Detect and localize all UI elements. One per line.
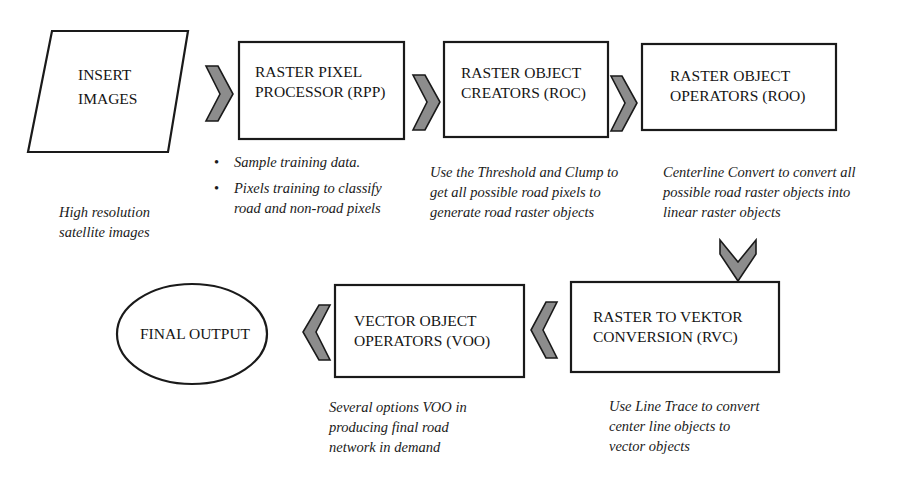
voo-caption: Several options VOO in producing final r…: [329, 397, 467, 457]
bullet-item: Sample training data.: [212, 152, 412, 172]
insert-images-caption: High resolution satellite images: [59, 202, 150, 242]
rpp-label-line2: PROCESSOR (RPP): [255, 82, 386, 102]
insert-images-label-line1: INSERT: [78, 65, 137, 85]
caption-line: Centerline Convert to convert all: [663, 162, 856, 182]
caption-line: vector objects: [609, 436, 760, 456]
caption-line: Use Line Trace to convert: [609, 396, 760, 416]
voo-label: VECTOR OBJECT OPERATORS (VOO): [354, 311, 490, 351]
rvc-label-line1: RASTER TO VEKTOR: [593, 307, 743, 327]
roc-label-line1: RASTER OBJECT: [461, 63, 586, 83]
roc-label-line2: CREATORS (ROC): [461, 83, 586, 103]
caption-line: Several options VOO in: [329, 397, 467, 417]
roc-label: RASTER OBJECT CREATORS (ROC): [461, 63, 586, 103]
caption-line: get all possible road pixels to: [430, 182, 618, 202]
roo-label: RASTER OBJECT OPERATORS (ROO): [670, 66, 805, 106]
roo-label-line1: RASTER OBJECT: [670, 66, 805, 86]
caption-line: High resolution: [59, 202, 150, 222]
insert-images-label-line2: IMAGES: [78, 89, 137, 109]
chevron-left-icon: [303, 305, 330, 360]
insert-images-label: INSERT IMAGES: [78, 65, 137, 109]
rvc-label: RASTER TO VEKTOR CONVERSION (RVC): [593, 307, 743, 347]
caption-line: producing final road: [329, 417, 467, 437]
bullet-item: Pixels training to classify road and non…: [212, 178, 412, 218]
chevron-right-icon: [206, 66, 233, 121]
chevron-right-icon: [413, 75, 440, 130]
chevron-left-icon: [531, 302, 557, 358]
rpp-caption-bullets: Sample training data. Pixels training to…: [212, 152, 412, 224]
rpp-label: RASTER PIXEL PROCESSOR (RPP): [255, 62, 386, 102]
roo-label-line2: OPERATORS (ROO): [670, 86, 805, 106]
rvc-caption: Use Line Trace to convert center line ob…: [609, 396, 760, 456]
rvc-label-line2: CONVERSION (RVC): [593, 327, 743, 347]
caption-line: possible road raster objects into: [663, 182, 856, 202]
caption-line: center line objects to: [609, 416, 760, 436]
voo-label-line1: VECTOR OBJECT: [354, 311, 490, 331]
caption-line: linear raster objects: [663, 202, 856, 222]
final-output-label: FINAL OUTPUT: [140, 324, 250, 344]
rpp-label-line1: RASTER PIXEL: [255, 62, 386, 82]
roc-caption: Use the Threshold and Clump to get all p…: [430, 162, 618, 222]
chevron-right-icon: [611, 76, 637, 131]
voo-label-line2: OPERATORS (VOO): [354, 331, 490, 351]
chevron-down-icon: [720, 240, 756, 281]
caption-line: network in demand: [329, 437, 467, 457]
caption-line: Use the Threshold and Clump to: [430, 162, 618, 182]
caption-line: satellite images: [59, 222, 150, 242]
caption-line: generate road raster objects: [430, 202, 618, 222]
roo-caption: Centerline Convert to convert all possib…: [663, 162, 856, 222]
